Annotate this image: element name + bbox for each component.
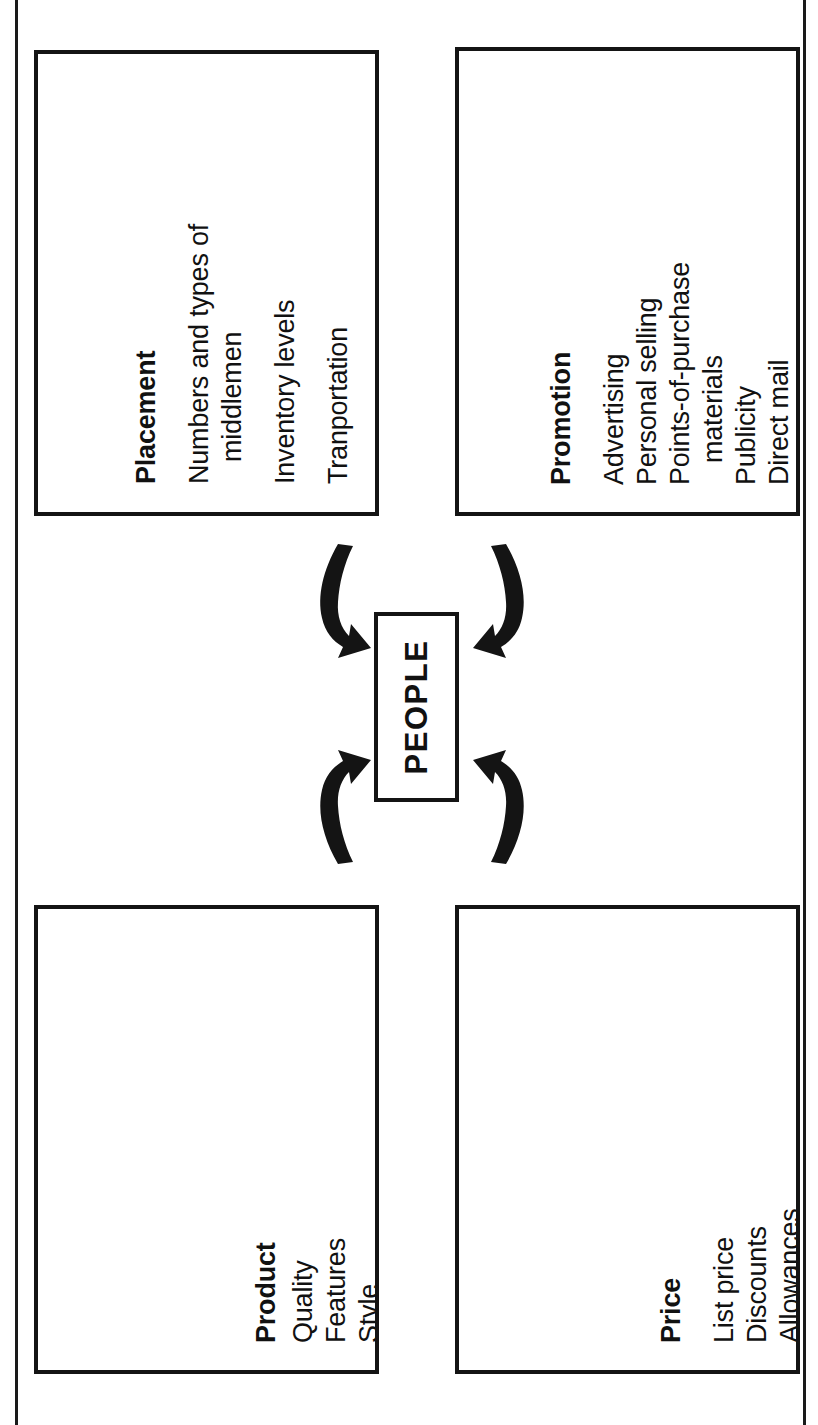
promotion-item-3: materials bbox=[697, 262, 730, 485]
product-item-0: Quality bbox=[287, 1197, 320, 1343]
price-item-0: List price bbox=[708, 1157, 741, 1343]
quadrant-box-price: Price List price Discounts Allowances Cr… bbox=[455, 905, 800, 1374]
promotion-item-1: Personal selling bbox=[631, 262, 664, 485]
placement-item-3: Tranportation bbox=[322, 224, 355, 484]
quadrant-box-promotion: Promotion Advertising Personal selling P… bbox=[455, 47, 800, 516]
placement-text-stack: Placement Numbers and types of middlemen… bbox=[130, 224, 355, 484]
curved-arrow-icon-bottom-left bbox=[310, 748, 392, 868]
price-text-stack: Price List price Discounts Allowances Cr… bbox=[655, 1157, 800, 1343]
promotion-item-5: Direct mail bbox=[763, 262, 796, 485]
curved-arrow-icon-bottom-right bbox=[452, 748, 534, 868]
price-item-1: Discounts bbox=[741, 1157, 774, 1343]
curved-arrow-icon-top-left bbox=[310, 540, 392, 660]
promotion-item-0: Advertising bbox=[598, 262, 631, 485]
product-item-1: Features bbox=[320, 1197, 353, 1343]
placement-item-0: Numbers and types of bbox=[183, 224, 216, 484]
placement-item-2: Inventory levels bbox=[269, 224, 302, 484]
page-edge-rule-left bbox=[15, 0, 18, 1425]
page-edge-rule-right bbox=[803, 0, 806, 1425]
placement-title: Placement bbox=[130, 224, 163, 484]
product-title: Product bbox=[250, 1197, 283, 1343]
promotion-item-2: Points-of-purchase bbox=[664, 262, 697, 485]
promotion-title: Promotion bbox=[545, 262, 578, 485]
price-item-2: Allowances bbox=[774, 1157, 800, 1343]
people-label: PEOPLE bbox=[399, 640, 435, 775]
promotion-item-4: Publicity bbox=[730, 262, 763, 485]
curved-arrow-icon-top-right bbox=[452, 540, 534, 660]
placement-item-1: middlemen bbox=[216, 224, 249, 484]
product-item-2: Style bbox=[353, 1197, 379, 1343]
promotion-text-stack: Promotion Advertising Personal selling P… bbox=[545, 262, 796, 485]
product-text-stack: Product Quality Features Style Brand nam… bbox=[250, 1197, 379, 1343]
quadrant-box-placement: Placement Numbers and types of middlemen… bbox=[34, 50, 379, 516]
quadrant-box-product: Product Quality Features Style Brand nam… bbox=[34, 905, 379, 1374]
price-title: Price bbox=[655, 1157, 688, 1343]
